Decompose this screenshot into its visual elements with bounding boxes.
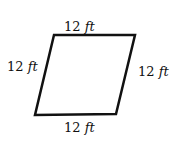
side-label-right: 12 ft [138, 65, 169, 78]
side-label-left: 12 ft [7, 60, 38, 73]
side-label-bottom: 12 ft [64, 121, 95, 134]
side-label-top: 12 ft [64, 20, 95, 33]
rhombus-diagram: 12 ft 12 ft 12 ft 12 ft [0, 0, 173, 142]
